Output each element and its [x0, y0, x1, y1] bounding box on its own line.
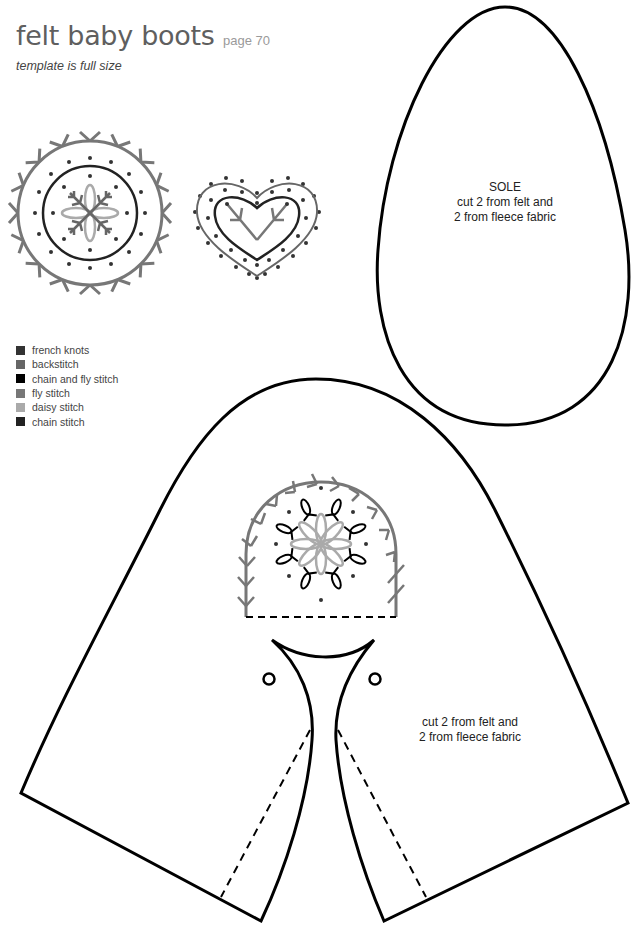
- legend-label: chain and fly stitch: [32, 373, 118, 385]
- legend-label: daisy stitch: [32, 401, 84, 413]
- left-fold-line: [221, 730, 310, 897]
- swatch-icon: [16, 403, 25, 412]
- swatch-icon: [16, 374, 25, 383]
- swatch-icon: [16, 389, 25, 398]
- left-button-marker: [264, 674, 275, 685]
- sole-name: SOLE: [430, 180, 580, 195]
- legend-item-french-knots: french knots: [16, 343, 118, 357]
- swatch-icon: [16, 346, 25, 355]
- sole-line-1: cut 2 from felt and: [430, 195, 580, 210]
- upper-line-2: 2 from fleece fabric: [395, 730, 545, 745]
- right-fold-line: [338, 730, 426, 897]
- right-button-marker: [370, 674, 381, 685]
- legend-label: french knots: [32, 344, 89, 356]
- pattern-artwork: [0, 0, 635, 929]
- heart-motif: [193, 176, 321, 280]
- legend-label: fly stitch: [32, 387, 70, 399]
- arch-motif: [238, 474, 404, 617]
- upper-outline: [21, 379, 628, 921]
- sole-instructions: SOLE cut 2 from felt and 2 from fleece f…: [430, 180, 580, 225]
- circle-motif: [9, 132, 171, 294]
- swatch-icon: [16, 360, 25, 369]
- legend-item-fly-stitch: fly stitch: [16, 386, 118, 400]
- legend-item-daisy-stitch: daisy stitch: [16, 400, 118, 414]
- legend-item-chain-and-fly: chain and fly stitch: [16, 372, 118, 386]
- legend-item-backstitch: backstitch: [16, 357, 118, 371]
- stitch-legend: french knots backstitch chain and fly st…: [16, 343, 118, 429]
- upper-instructions: cut 2 from felt and 2 from fleece fabric: [395, 715, 545, 745]
- swatch-icon: [16, 417, 25, 426]
- legend-label: chain stitch: [32, 416, 85, 428]
- legend-label: backstitch: [32, 358, 79, 370]
- legend-item-chain-stitch: chain stitch: [16, 414, 118, 428]
- sole-line-2: 2 from fleece fabric: [430, 210, 580, 225]
- upper-line-1: cut 2 from felt and: [395, 715, 545, 730]
